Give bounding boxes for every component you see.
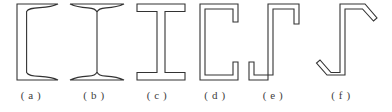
- figure-label-d: ( d ): [195, 87, 235, 103]
- figure-label-f: ( f ): [321, 87, 361, 103]
- inclined-lip-zed-section-icon: [312, 0, 382, 84]
- section-shapes-row: [0, 0, 392, 84]
- channel-tapered-flange-icon: [10, 0, 70, 84]
- figure-label-b: ( b ): [74, 87, 114, 103]
- lipped-channel-icon: [196, 0, 246, 84]
- figure-container: ( a ) ( b ) ( c ) ( d ) ( e ) ( f ): [0, 0, 392, 112]
- wide-flange-beam-icon: [132, 0, 190, 84]
- section-shape-channel-tapered-flange: [10, 0, 70, 84]
- lipped-zed-section-icon: [246, 0, 306, 84]
- figure-label-e: ( e ): [253, 87, 293, 103]
- figure-label-c: ( c ): [137, 87, 177, 103]
- i-beam-tapered-flange-icon: [66, 0, 128, 84]
- figure-label-a: ( a ): [11, 87, 51, 103]
- section-shape-inclined-lip-zed-section: [312, 0, 382, 84]
- section-shape-i-beam-tapered-flange: [66, 0, 128, 84]
- section-shape-wide-flange-beam: [132, 0, 190, 84]
- section-shape-lipped-channel: [196, 0, 246, 84]
- figure-labels-row: ( a ) ( b ) ( c ) ( d ) ( e ) ( f ): [0, 84, 392, 112]
- section-shape-lipped-zed-section: [246, 0, 306, 84]
